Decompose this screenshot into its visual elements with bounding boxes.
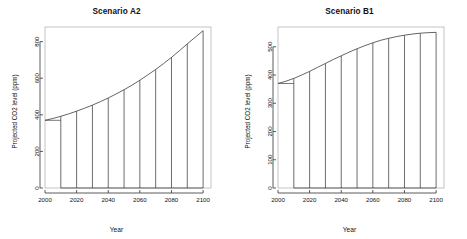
y-tick-label-a2: 600 (33, 73, 40, 84)
y-tick-label-a2: 0 (33, 186, 40, 190)
y-tick-label-a2: 200 (33, 146, 40, 157)
x-tick-label-a2: 2000 (38, 196, 52, 203)
x-tick-label-a2: 2020 (70, 196, 84, 203)
x-tick-label-b1: 2060 (366, 196, 380, 203)
x-tick-label-b1: 2020 (303, 196, 317, 203)
chart-panel-a2: Scenario A2 Projected CO2 level (ppm) Ye… (0, 0, 233, 239)
chart-panel-b1: Scenario B1 Projected CO2 level (ppm) Ye… (233, 0, 466, 239)
y-tick-label-b1: 0 (266, 186, 273, 190)
y-tick-label-a2: 800 (33, 36, 40, 47)
x-tick-label-b1: 2100 (429, 196, 443, 203)
x-tick-label-a2: 2080 (165, 196, 179, 203)
y-tick-label-b1: 500 (266, 41, 273, 52)
x-tick-label-a2: 2060 (133, 196, 147, 203)
x-tick-label-b1: 2040 (334, 196, 348, 203)
y-tick-label-a2: 400 (33, 109, 40, 120)
plot-area-b1: 0100200300400500200020202040206020802100 (233, 0, 466, 239)
y-tick-label-b1: 100 (266, 154, 273, 165)
x-tick-label-b1: 2000 (271, 196, 285, 203)
y-tick-label-b1: 200 (266, 126, 273, 137)
x-tick-label-a2: 2040 (101, 196, 115, 203)
plot-box-a2 (45, 27, 211, 188)
plot-box-b1 (278, 27, 444, 188)
x-tick-label-a2: 2100 (196, 196, 210, 203)
figure-root: Scenario A2 Projected CO2 level (ppm) Ye… (0, 0, 467, 239)
x-tick-label-b1: 2080 (398, 196, 412, 203)
plot-area-a2: 0200400600800200020202040206020802100 (0, 0, 233, 239)
y-tick-label-b1: 300 (266, 98, 273, 109)
y-tick-label-b1: 400 (266, 69, 273, 80)
